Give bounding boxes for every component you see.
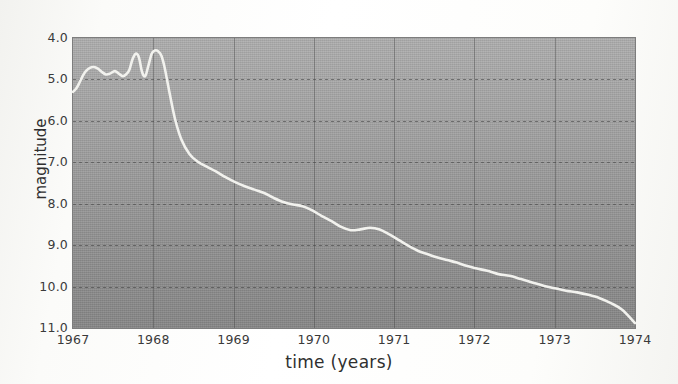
y-tick-label: 8.0 [48,196,68,211]
x-tick-label: 1967 [57,332,90,347]
y-tick-label: 5.0 [48,71,68,86]
light-curve-line [73,38,635,328]
y-tick-label: 6.0 [48,113,68,128]
x-tick-label: 1974 [619,332,652,347]
y-tick-label: 10.0 [39,279,68,294]
x-tick-label: 1968 [137,332,170,347]
x-tick-label: 1972 [458,332,491,347]
y-tick-label: 9.0 [48,237,68,252]
y-axis-label: magnitude [32,94,50,224]
x-tick-label: 1973 [538,332,571,347]
curve-path [73,50,635,323]
x-axis-label: time (years) [0,352,678,372]
y-tick-label: 4.0 [48,30,68,45]
plot-area [73,38,635,328]
x-tick-label: 1971 [378,332,411,347]
y-tick-label: 7.0 [48,154,68,169]
x-tick-label: 1969 [217,332,250,347]
x-tick-label: 1970 [298,332,331,347]
chart-figure: 4.05.06.07.08.09.010.011.0 magnitude 196… [0,0,678,384]
